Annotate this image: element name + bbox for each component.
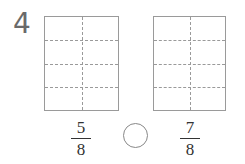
problem-number: 4 (13, 10, 31, 38)
grid-divider (45, 40, 118, 41)
left-fraction: 5 8 (71, 119, 91, 158)
fraction-bar (71, 138, 91, 139)
right-fraction: 7 8 (180, 119, 200, 158)
left-numerator: 5 (71, 119, 91, 136)
grid-divider (45, 87, 118, 88)
left-fraction-grid (44, 16, 119, 111)
comparison-answer-circle[interactable] (123, 123, 148, 148)
grid-divider (45, 64, 118, 65)
right-fraction-grid (153, 16, 226, 111)
right-numerator: 7 (180, 119, 200, 136)
right-denominator: 8 (180, 141, 200, 158)
grid-divider (154, 87, 225, 88)
grid-divider (154, 64, 225, 65)
left-denominator: 8 (71, 141, 91, 158)
grid-divider (154, 40, 225, 41)
fraction-bar (180, 138, 200, 139)
